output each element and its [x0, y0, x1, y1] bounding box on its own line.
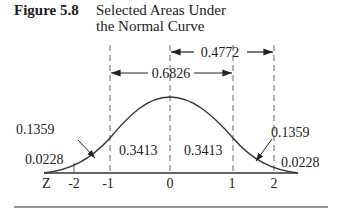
tick-label-2: 2 [271, 176, 278, 191]
bracket-0-to-2-label: 0.4772 [201, 45, 240, 60]
tick-label-0: 0 [167, 176, 174, 191]
normal-curve [44, 97, 298, 173]
tick-label-minus-1: -1 [102, 176, 114, 191]
area-left-center-label: 0.3413 [119, 143, 158, 158]
tick-label-minus-2: -2 [68, 176, 80, 191]
area-right-center-label: 0.3413 [184, 143, 223, 158]
right-mid-pointer [256, 139, 272, 161]
normal-curve-diagram: 0.4772 0.6826 0.1359 0.0228 0.3413 0.341… [0, 0, 342, 208]
left-mid-pointer [78, 140, 95, 158]
bracket-minus1-to-1-label: 0.6826 [152, 66, 191, 81]
area-left-mid-label: 0.1359 [16, 122, 55, 137]
axis-z-label: Z [42, 176, 51, 191]
tick-label-1: 1 [229, 176, 236, 191]
area-left-tail-label: 0.0228 [25, 152, 64, 167]
area-right-mid-label: 0.1359 [271, 125, 310, 140]
area-right-tail-label: 0.0228 [281, 155, 320, 170]
